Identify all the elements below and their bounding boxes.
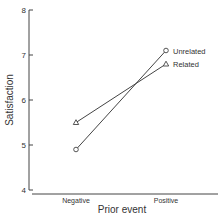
triangle-marker-icon: [163, 61, 168, 66]
y-tick-label: 8: [22, 6, 27, 15]
series-line: [76, 64, 166, 123]
y-tick-label: 5: [22, 141, 27, 150]
circle-marker-icon: [74, 147, 79, 152]
triangle-marker-icon: [73, 120, 78, 125]
y-axis-title: Satisfaction: [4, 74, 15, 126]
x-category-label: Negative: [62, 197, 90, 205]
legend-label: Related: [173, 60, 199, 69]
y-tick-label: 6: [22, 96, 27, 105]
y-tick-label: 7: [22, 51, 27, 60]
x-category-label: Positive: [154, 197, 179, 204]
x-axis-title: Prior event: [98, 204, 147, 215]
series-related: Related: [73, 60, 199, 125]
y-tick-label: 4: [22, 186, 27, 195]
circle-marker-icon: [164, 48, 169, 53]
y-ticks: 45678: [22, 6, 33, 195]
legend-label: Unrelated: [173, 47, 206, 56]
chart: 45678 NegativePositive Satisfaction Prio…: [0, 0, 221, 221]
series-group: UnrelatedRelated: [73, 47, 205, 152]
series-line: [76, 51, 166, 150]
